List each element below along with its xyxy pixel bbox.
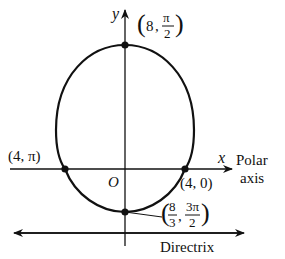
leader-line (125, 212, 162, 217)
svg-text:(: ( (137, 9, 146, 38)
y-axis-label: y (110, 5, 120, 23)
label-top-point: ( 8 , π 2 ) (137, 9, 184, 41)
label-right-point: (4, 0) (180, 175, 213, 192)
svg-text:): ) (201, 198, 210, 227)
label-left-point: (4, π) (8, 148, 41, 165)
polar-ellipse-diagram: y x O Polar axis Directrix ( 8 , π 2 ) (… (0, 0, 285, 259)
svg-text:π: π (163, 10, 170, 25)
svg-text:): ) (175, 9, 184, 38)
directrix-label: Directrix (160, 239, 215, 255)
point-right (181, 165, 188, 172)
svg-text:8: 8 (169, 199, 176, 214)
polar-label-line1: Polar (236, 152, 268, 168)
point-bottom (121, 208, 128, 215)
point-top (121, 41, 128, 48)
svg-text:3: 3 (169, 215, 176, 230)
polar-label-line2: axis (240, 170, 264, 186)
svg-text:2: 2 (189, 215, 196, 230)
x-axis-label: x (217, 149, 225, 166)
origin-label: O (108, 174, 119, 190)
svg-text:8: 8 (146, 18, 154, 34)
svg-text:3π: 3π (186, 199, 200, 214)
svg-text:,: , (178, 208, 182, 224)
point-left (61, 165, 68, 172)
label-bottom-point: ( 8 3 , 3π 2 ) (161, 198, 210, 230)
svg-text:2: 2 (164, 26, 171, 41)
svg-text:,: , (155, 18, 159, 34)
